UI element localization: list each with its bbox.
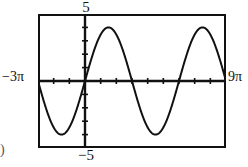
trig-function-graph: 5 −5 −3π 9π ) — [0, 0, 248, 167]
x-min-label: −3π — [2, 70, 24, 84]
plot-canvas — [38, 14, 226, 148]
y-max-label: 5 — [66, 0, 106, 15]
y-min-label: −5 — [66, 148, 106, 163]
x-max-label: 9π — [228, 70, 242, 84]
choice-marker: ) — [0, 143, 5, 157]
